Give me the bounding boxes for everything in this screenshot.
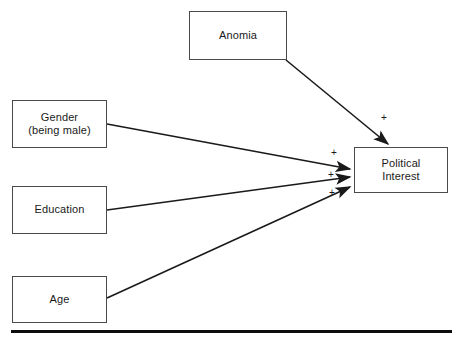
node-age[interactable]: Age bbox=[12, 276, 107, 323]
node-political-interest-label: Political Interest bbox=[382, 157, 421, 184]
baseline-rule bbox=[11, 330, 452, 333]
arrow-gender-to-political-interest bbox=[107, 124, 350, 169]
node-anomia-label: Anomia bbox=[219, 29, 257, 43]
node-age-label: Age bbox=[50, 293, 70, 307]
edge-sign-anomia: + bbox=[381, 113, 387, 123]
arrow-anomia-to-political-interest bbox=[286, 60, 388, 144]
arrow-education-to-political-interest bbox=[107, 177, 350, 210]
node-education-label: Education bbox=[35, 203, 85, 217]
node-gender-label: Gender (being male) bbox=[28, 111, 90, 138]
node-political-interest[interactable]: Political Interest bbox=[354, 147, 448, 193]
arrow-age-to-political-interest bbox=[107, 187, 350, 298]
diagram-canvas: Anomia Gender (being male) Education Age… bbox=[0, 0, 459, 341]
edge-sign-education: + bbox=[328, 170, 334, 180]
edge-sign-gender: + bbox=[331, 148, 337, 158]
node-education[interactable]: Education bbox=[12, 186, 107, 234]
node-anomia[interactable]: Anomia bbox=[189, 11, 287, 60]
node-gender[interactable]: Gender (being male) bbox=[12, 100, 107, 148]
edge-sign-age: + bbox=[329, 188, 335, 198]
